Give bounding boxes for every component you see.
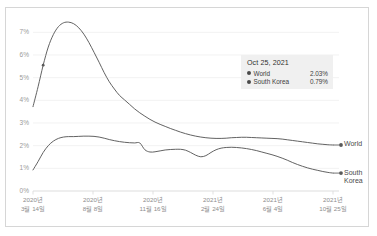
x-tick-label-date: 2월 24일 (183, 205, 243, 214)
tooltip-row-south-korea: South Korea 0.79% (247, 78, 328, 85)
x-tick-label-year: 2021년 (183, 196, 243, 205)
x-tick-label-date: 3월 14일 (3, 205, 63, 214)
x-tick-label-date: 8월 8일 (63, 205, 123, 214)
x-tick-label-year: 2020년 (123, 196, 183, 205)
chart-container: 0% 1% 2% 3% 4% 5% 6% 7% 2020년 3월 14일 202… (0, 0, 377, 236)
x-tick-label: 2021년 2월 24일 (183, 196, 243, 213)
y-tick-label: 7% (9, 28, 29, 35)
x-tick-label-year: 2021년 (243, 196, 303, 205)
series-end-label-south-korea-line1: South (344, 169, 363, 178)
tooltip-series-value: 0.79% (310, 78, 328, 85)
x-tick-label-date: 11월 16일 (123, 205, 183, 214)
x-tick-label-year: 2020년 (63, 196, 123, 205)
series-rise-point-marker (42, 64, 45, 67)
x-tick-label-year: 2021년 (303, 196, 363, 205)
tooltip-title: Oct 25, 2021 (247, 59, 328, 67)
x-tick-marks-group (33, 191, 333, 195)
series-end-label-world-line1: World (344, 140, 362, 149)
y-tick-label: 4% (9, 96, 29, 103)
y-tick-label: 5% (9, 74, 29, 81)
y-tick-label: 3% (9, 119, 29, 126)
tooltip-series-name: South Korea (254, 78, 310, 85)
x-tick-label: 2020년 11월 16일 (123, 196, 183, 213)
chart-tooltip: Oct 25, 2021 World 2.03% South Korea 0.7… (241, 55, 333, 89)
series-dot-icon (247, 80, 251, 84)
y-tick-label: 1% (9, 164, 29, 171)
series-end-point-marker (339, 171, 343, 175)
series-end-point-marker (339, 143, 343, 147)
series-end-label-south-korea: South Korea (344, 169, 363, 186)
series-line-south-korea (33, 136, 333, 173)
x-tick-label: 2021년 6월 4일 (243, 196, 303, 213)
tooltip-series-name: World (254, 70, 310, 77)
x-tick-label-date: 6월 4일 (243, 205, 303, 214)
x-tick-label-year: 2020년 (3, 196, 63, 205)
y-tick-label: 6% (9, 51, 29, 58)
series-end-label-south-korea-line2: Korea (344, 177, 363, 186)
x-tick-label-date: 10월 25일 (303, 205, 363, 214)
series-dot-icon (247, 71, 251, 75)
tooltip-row-world: World 2.03% (247, 70, 328, 77)
tooltip-series-value: 2.03% (310, 70, 328, 77)
x-tick-label: 2020년 3월 14일 (3, 196, 63, 213)
series-end-label-world: World (344, 140, 362, 149)
x-tick-label: 2020년 8월 8일 (63, 196, 123, 213)
x-tick-label: 2021년 10월 25일 (303, 196, 363, 213)
y-tick-label: 0% (9, 187, 29, 194)
y-tick-label: 2% (9, 142, 29, 149)
series-lines-group (33, 22, 341, 173)
